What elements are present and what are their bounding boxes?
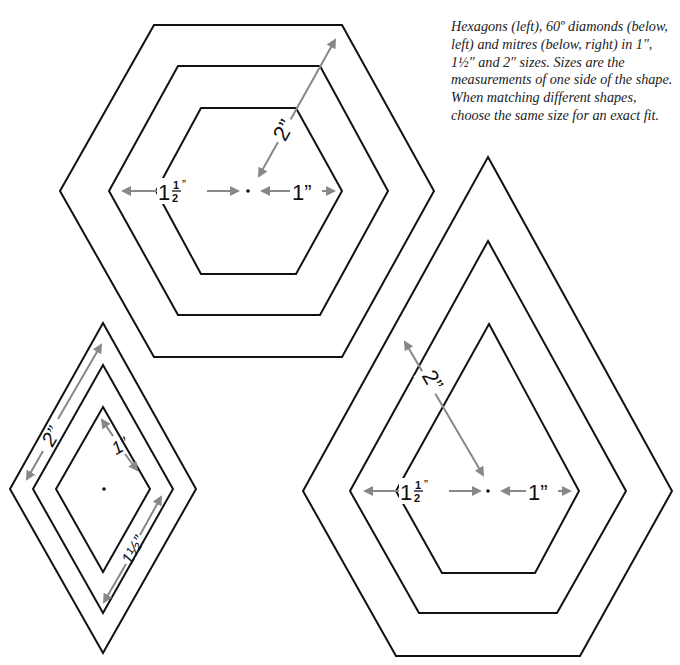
mitre-center-dot: [486, 489, 490, 493]
mitre-label-1: 1”: [528, 480, 548, 505]
hexagon-center-dot: [246, 189, 250, 193]
hexagon-label-1-5-den: 2: [172, 192, 178, 204]
mitre-1in: [396, 324, 579, 573]
diamond-1-5-arrow-lower: [104, 564, 126, 602]
mitre-label-1-5-num: 1: [415, 479, 421, 491]
hexagon-group: 1 1 2 ” 1” 2”: [60, 25, 434, 357]
diamond-label-1: 1”: [108, 433, 133, 459]
mitre-label-1-5-whole: 1: [400, 480, 412, 505]
diamond-center-dot: [102, 487, 106, 491]
mitre-label-1-5-den: 2: [414, 492, 420, 504]
diamond-label-2: 2”: [36, 422, 65, 450]
hexagon-label-1-5-quote: ”: [182, 178, 186, 192]
mitre-label-1-5-quote: ”: [424, 478, 428, 492]
hexagon-label-1-5-whole: 1: [158, 180, 170, 205]
diamond-group: 2” 1” 1½”: [10, 323, 196, 653]
mitre-group: 1 1 2 ” 1” 2”: [303, 157, 672, 656]
templates-diagram: 1 1 2 ” 1” 2” 2” 1” 1½” 1 1: [0, 0, 680, 665]
mitre-1-5in: [350, 241, 626, 613]
hexagon-label-1: 1”: [292, 180, 312, 205]
hexagon-label-1-5-num: 1: [173, 179, 179, 191]
mitre-2in: [303, 157, 672, 656]
